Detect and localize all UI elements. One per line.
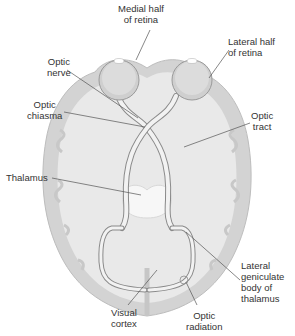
label-visual-cortex: Visual cortex [111,307,137,329]
label-lateral-half-of-retina: Lateral half of retina [228,36,275,58]
label-optic-chiasma: Optic chiasma [27,99,62,121]
label-medial-half-of-retina: Medial half of retina [118,3,164,25]
label-thalamus: Thalamus [6,172,48,183]
label-lateral-geniculate-body: Lateral geniculate body of thalamus [241,260,284,304]
label-optic-tract: Optic tract [251,110,273,132]
thalamus-shape [123,185,172,218]
label-optic-nerve: Optic nerve [47,56,71,78]
visual-pathway-diagram: Medial half of retina Lateral half of re… [0,0,295,336]
label-optic-radiation: Optic radiation [186,310,222,332]
